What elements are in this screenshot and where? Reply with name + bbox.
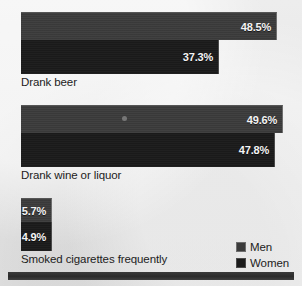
chart-legend: Men Women [236,240,289,272]
bar-men-drank-wine-or-liquor[interactable]: 49.6% [21,105,283,133]
legend-swatch-men-icon [236,242,246,252]
bottom-divider-rule [8,272,294,280]
legend-swatch-women-icon [236,258,246,268]
category-label-smoked-cigarettes-frequently: Smoked cigarettes frequently [21,253,167,265]
bar-value-men-drank-wine-or-liquor: 49.6% [247,114,282,126]
legend-item-women[interactable]: Women [236,256,289,270]
bar-men-smoked-cigarettes-frequently[interactable]: 5.7% [21,198,52,222]
plot-area: 48.5% 37.3% Drank beer 49.6% 47.8% Drank… [0,0,302,286]
bar-women-smoked-cigarettes-frequently[interactable]: 4.9% [21,222,52,251]
bar-value-women-drank-wine-or-liquor: 47.8% [239,144,274,156]
bar-women-drank-beer[interactable]: 37.3% [21,40,219,74]
scan-speck-artifact [122,116,127,121]
bar-women-drank-wine-or-liquor[interactable]: 47.8% [21,133,275,167]
bar-men-drank-beer[interactable]: 48.5% [21,12,277,40]
category-label-drank-beer: Drank beer [21,76,77,88]
bar-value-women-drank-beer: 37.3% [183,51,218,63]
bar-value-men-smoked-cigarettes-frequently: 5.7% [22,205,51,217]
legend-label-women: Women [250,257,289,269]
chart-container: 48.5% 37.3% Drank beer 49.6% 47.8% Drank… [0,0,302,286]
bar-value-men-drank-beer: 48.5% [241,21,276,33]
category-label-drank-wine-or-liquor: Drank wine or liquor [21,169,121,181]
legend-item-men[interactable]: Men [236,240,289,254]
bar-value-women-smoked-cigarettes-frequently: 4.9% [22,231,51,243]
legend-label-men: Men [250,241,272,253]
